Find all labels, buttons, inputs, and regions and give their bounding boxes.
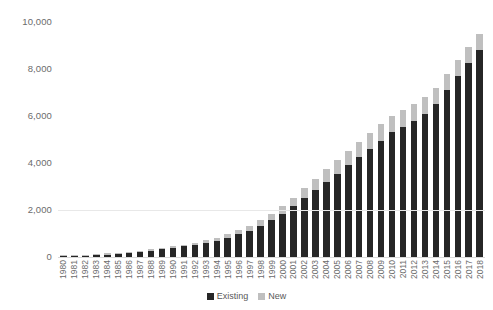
bar-stack[interactable] <box>400 110 407 257</box>
bar-group[interactable] <box>441 22 452 257</box>
bar-stack[interactable] <box>356 142 363 257</box>
bar-group[interactable] <box>135 22 146 257</box>
bar-segment-existing[interactable] <box>389 132 396 257</box>
bar-segment-existing[interactable] <box>279 214 286 257</box>
bar-stack[interactable] <box>312 179 319 257</box>
bar-group[interactable] <box>233 22 244 257</box>
bar-group[interactable] <box>124 22 135 257</box>
bar-group[interactable] <box>332 22 343 257</box>
bar-group[interactable] <box>387 22 398 257</box>
bar-group[interactable] <box>288 22 299 257</box>
bar-stack[interactable] <box>148 249 155 257</box>
bar-segment-existing[interactable] <box>192 245 199 257</box>
bar-segment-existing[interactable] <box>290 206 297 257</box>
bar-group[interactable] <box>244 22 255 257</box>
bar-segment-existing[interactable] <box>257 226 264 257</box>
bar-group[interactable] <box>255 22 266 257</box>
bar-stack[interactable] <box>367 133 374 257</box>
bar-group[interactable] <box>91 22 102 257</box>
bar-segment-existing[interactable] <box>334 174 341 257</box>
bar-stack[interactable] <box>224 234 231 257</box>
bar-segment-new[interactable] <box>476 34 483 50</box>
bar-group[interactable] <box>189 22 200 257</box>
bar-segment-existing[interactable] <box>203 243 210 257</box>
bar-group[interactable] <box>113 22 124 257</box>
bar-group[interactable] <box>69 22 80 257</box>
bar-segment-existing[interactable] <box>235 234 242 257</box>
bar-stack[interactable] <box>378 124 385 257</box>
bar-segment-existing[interactable] <box>378 141 385 257</box>
bar-segment-existing[interactable] <box>170 248 177 257</box>
bar-stack[interactable] <box>433 88 440 257</box>
bar-stack[interactable] <box>279 206 286 257</box>
bar-group[interactable] <box>321 22 332 257</box>
bar-stack[interactable] <box>444 74 451 257</box>
bar-segment-existing[interactable] <box>268 220 275 257</box>
bar-segment-existing[interactable] <box>367 149 374 257</box>
bar-group[interactable] <box>463 22 474 257</box>
bar-group[interactable] <box>310 22 321 257</box>
bar-segment-existing[interactable] <box>214 241 221 257</box>
bar-group[interactable] <box>168 22 179 257</box>
bar-segment-existing[interactable] <box>345 165 352 257</box>
bar-segment-existing[interactable] <box>411 121 418 257</box>
bar-group[interactable] <box>211 22 222 257</box>
bar-segment-new[interactable] <box>290 198 297 207</box>
bar-stack[interactable] <box>389 116 396 257</box>
bar-stack[interactable] <box>411 104 418 257</box>
bar-segment-existing[interactable] <box>422 114 429 257</box>
bar-stack[interactable] <box>181 245 188 257</box>
bar-stack[interactable] <box>345 151 352 257</box>
bar-segment-new[interactable] <box>444 74 451 90</box>
bar-segment-existing[interactable] <box>455 76 462 257</box>
bar-segment-new[interactable] <box>268 214 275 221</box>
bar-stack[interactable] <box>203 240 210 257</box>
bar-stack[interactable] <box>214 238 221 257</box>
bar-segment-existing[interactable] <box>433 104 440 257</box>
bar-group[interactable] <box>146 22 157 257</box>
bar-segment-new[interactable] <box>323 169 330 181</box>
bar-stack[interactable] <box>192 243 199 257</box>
bar-stack[interactable] <box>476 34 483 257</box>
bar-group[interactable] <box>376 22 387 257</box>
bar-group[interactable] <box>430 22 441 257</box>
bar-group[interactable] <box>343 22 354 257</box>
bar-group[interactable] <box>452 22 463 257</box>
bar-segment-new[interactable] <box>367 133 374 149</box>
bar-stack[interactable] <box>465 47 472 257</box>
bar-stack[interactable] <box>159 248 166 257</box>
bar-segment-new[interactable] <box>400 110 407 126</box>
bar-segment-new[interactable] <box>312 179 319 190</box>
bar-group[interactable] <box>222 22 233 257</box>
bar-segment-new[interactable] <box>433 88 440 104</box>
bar-stack[interactable] <box>455 60 462 257</box>
bar-group[interactable] <box>102 22 113 257</box>
bar-segment-new[interactable] <box>356 142 363 157</box>
bar-segment-existing[interactable] <box>246 231 253 257</box>
bar-segment-existing[interactable] <box>465 63 472 257</box>
bar-stack[interactable] <box>323 169 330 257</box>
bar-segment-new[interactable] <box>465 47 472 63</box>
bar-group[interactable] <box>58 22 69 257</box>
bar-stack[interactable] <box>246 226 253 257</box>
bar-segment-new[interactable] <box>411 104 418 120</box>
bar-stack[interactable] <box>290 198 297 257</box>
bar-stack[interactable] <box>422 97 429 257</box>
bar-stack[interactable] <box>170 246 177 257</box>
bar-group[interactable] <box>200 22 211 257</box>
bar-segment-existing[interactable] <box>159 249 166 257</box>
bar-stack[interactable] <box>334 160 341 257</box>
bar-group[interactable] <box>178 22 189 257</box>
bar-stack[interactable] <box>235 230 242 257</box>
bar-group[interactable] <box>354 22 365 257</box>
bar-segment-new[interactable] <box>422 97 429 113</box>
bar-stack[interactable] <box>268 214 275 257</box>
bar-group[interactable] <box>80 22 91 257</box>
bar-group[interactable] <box>277 22 288 257</box>
bar-group[interactable] <box>157 22 168 257</box>
bar-segment-existing[interactable] <box>323 182 330 257</box>
legend-item[interactable]: New <box>258 291 286 301</box>
bar-stack[interactable] <box>301 188 308 257</box>
legend-item[interactable]: Existing <box>207 291 249 301</box>
bar-group[interactable] <box>419 22 430 257</box>
